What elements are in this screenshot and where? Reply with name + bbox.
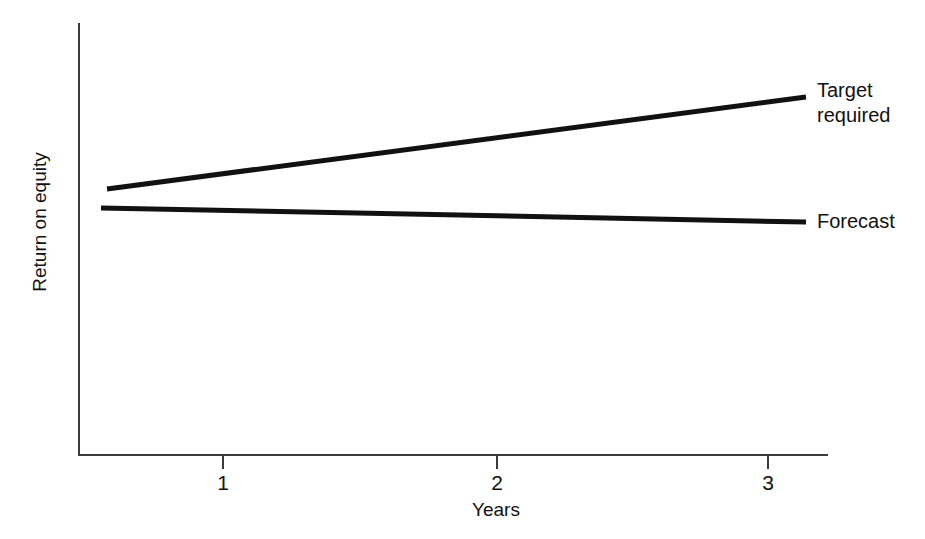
series-label-forecast-line1: Forecast [817,209,895,234]
series-label-forecast: Forecast [817,209,895,234]
series-label-target-required-line1: Target [817,78,890,103]
chart-canvas: 1 2 3 Return on equity Years Target requ… [0,0,925,539]
series-line-forecast [101,208,806,222]
series-label-target-required-line2: required [817,103,890,128]
plot-area [0,0,925,539]
series-label-target-required: Target required [817,78,890,128]
series-line-target-required [107,97,806,189]
